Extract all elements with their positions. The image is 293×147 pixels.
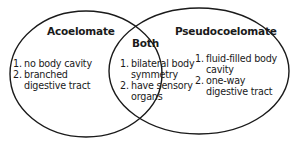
pseudocoelomate-list: 1. fluid-filled body cavity 2. one-way d…	[195, 53, 277, 97]
list-item: 2. branched digestive tract	[13, 69, 92, 91]
both-title: Both	[132, 37, 159, 49]
both-list: 1. bilateral body symmetry 2. have senso…	[120, 58, 194, 102]
list-item: 2. one-way digestive tract	[195, 75, 277, 97]
acoelomate-title: Acoelomate	[47, 25, 115, 37]
list-item: 2. have sensory organs	[120, 80, 194, 102]
list-item: 1. bilateral body symmetry	[120, 58, 194, 80]
list-item: 1. no body cavity	[13, 58, 92, 69]
acoelomate-list: 1. no body cavity 2. branched digestive …	[13, 58, 92, 91]
list-item: 1. fluid-filled body cavity	[195, 53, 277, 75]
pseudocoelomate-title: Pseudocoelomate	[175, 25, 277, 37]
